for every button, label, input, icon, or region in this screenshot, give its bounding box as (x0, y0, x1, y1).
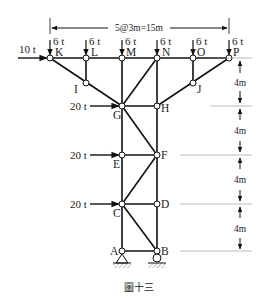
label-C: C (113, 207, 121, 219)
vertical-loads: 6 t 6 t 6 t 6 t 6 t 6 t (50, 35, 243, 55)
label-A: A (110, 245, 119, 257)
panel-height-2: 4m (234, 126, 247, 136)
load-label-E: 20 t (70, 149, 87, 161)
node-O (190, 55, 196, 61)
span-dimension-label: 5@3m=15m (115, 23, 163, 33)
node-K (47, 55, 53, 61)
label-N: N (162, 46, 171, 58)
horizontal-loads: 10 t 20 t 20 t 20 t (18, 43, 119, 210)
label-I: I (74, 83, 78, 95)
node-M (119, 55, 125, 61)
label-H: H (161, 102, 169, 114)
truss-diagram: 5@3m=15m 10 t 20 t 20 t 20 t (0, 0, 267, 306)
node-N (154, 55, 160, 61)
load-label-C: 20 t (70, 198, 87, 210)
label-M: M (126, 46, 136, 58)
panel-height-1: 4m (234, 78, 247, 88)
label-E: E (113, 158, 120, 170)
node-H (154, 103, 160, 109)
label-J: J (197, 83, 202, 95)
label-G: G (113, 109, 121, 121)
node-I (83, 80, 89, 86)
load-label-G: 20 t (70, 100, 87, 112)
node-F (154, 152, 160, 158)
node-B (154, 248, 160, 254)
node-D (154, 201, 160, 207)
label-B: B (161, 245, 169, 257)
figure-caption: 圖十三 (124, 281, 154, 293)
node-L (83, 55, 89, 61)
label-D: D (161, 198, 169, 210)
panel-height-4: 4m (234, 224, 247, 234)
label-L: L (91, 46, 98, 58)
label-O: O (197, 46, 205, 58)
node-J (190, 80, 196, 86)
load-label-10t: 10 t (19, 43, 36, 55)
panel-height-3: 4m (234, 175, 247, 185)
label-P: P (233, 46, 239, 58)
label-F: F (161, 149, 167, 161)
span-dimension: 5@3m=15m (50, 18, 229, 34)
label-K: K (55, 46, 64, 58)
